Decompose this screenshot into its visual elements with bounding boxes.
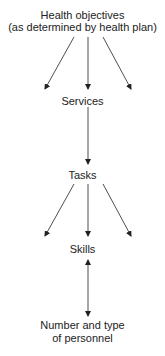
node-personnel-line2: of personnel — [0, 332, 165, 344]
objectives-to-services-arrows — [45, 37, 131, 89]
node-objectives-line1: Health objectives — [0, 9, 165, 21]
node-objectives-line2: (as determined by health plan) — [0, 21, 165, 33]
node-services: Services — [0, 95, 165, 107]
node-tasks: Tasks — [0, 169, 165, 181]
tasks-to-skills-arrows — [45, 184, 131, 236]
node-skills: Skills — [0, 243, 165, 255]
node-personnel-line1: Number and type — [0, 319, 165, 331]
